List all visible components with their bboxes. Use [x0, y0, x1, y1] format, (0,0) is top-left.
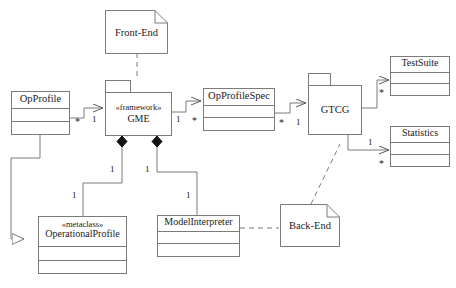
- class-opprofile-name: OpProfile: [12, 92, 69, 109]
- note-front-end: Front-End: [105, 10, 168, 54]
- composition-diamond-right: [152, 136, 162, 147]
- class-modelinterpreter-attributes: [158, 232, 239, 244]
- class-operationalprofile-attributes: [39, 247, 126, 261]
- link-gtcg-testsuite: [362, 80, 389, 108]
- link-gme-modelinterpreter: [157, 147, 197, 215]
- mult-opprofile-gme-target: 1: [92, 114, 97, 124]
- class-modelinterpreter[interactable]: ModelInterpreter: [157, 215, 240, 257]
- link-backend-gtcg: [311, 144, 340, 204]
- class-opprofilespec-name: OpProfileSpec: [204, 89, 274, 106]
- link-gme-operationalprofile: [83, 147, 122, 216]
- package-gme-stereotype: «framework»: [116, 103, 162, 113]
- note-back-end: Back-End: [280, 204, 340, 247]
- class-statistics-attributes: [391, 143, 449, 155]
- link-gme-opprofilespec: [172, 101, 201, 112]
- uml-class-diagram: Front-End Back-End «framework» GME GTCG …: [0, 0, 456, 288]
- package-gme[interactable]: «framework» GME: [105, 92, 172, 136]
- class-operationalprofile-header: «metaclass» OperationalProfile: [39, 217, 126, 247]
- mult-gme-comp-left-far: 1: [72, 190, 77, 200]
- mult-gme-comp-right-near: 1: [145, 164, 150, 174]
- class-opprofilespec-operations: [204, 118, 274, 130]
- class-testsuite-attributes: [391, 73, 449, 84]
- package-gtcg-name: GTCG: [321, 104, 350, 116]
- class-operationalprofile[interactable]: «metaclass» OperationalProfile: [38, 216, 127, 274]
- package-gme-text: «framework» GME: [116, 103, 162, 124]
- note-label-back-end: Back-End: [280, 204, 340, 247]
- class-opprofile-attributes: [12, 109, 69, 122]
- class-testsuite[interactable]: TestSuite: [390, 56, 450, 96]
- class-opprofilespec-attributes: [204, 106, 274, 118]
- class-operationalprofile-operations: [39, 261, 126, 274]
- class-modelinterpreter-name: ModelInterpreter: [158, 216, 239, 232]
- mult-spec-gtcg-source: *: [279, 117, 284, 128]
- class-modelinterpreter-operations: [158, 244, 239, 256]
- mult-gme-spec-target: *: [192, 115, 197, 126]
- class-statistics-name: Statistics: [391, 127, 449, 143]
- class-operationalprofile-name: OperationalProfile: [41, 229, 124, 240]
- class-opprofilespec[interactable]: OpProfileSpec: [203, 88, 275, 131]
- mult-opprofile-gme-source: *: [75, 116, 80, 127]
- class-testsuite-name: TestSuite: [391, 57, 449, 73]
- class-opprofile-operations: [12, 122, 69, 134]
- mult-gme-comp-left-near: 1: [110, 164, 115, 174]
- composition-diamonds: [117, 136, 162, 147]
- package-gtcg[interactable]: GTCG: [308, 85, 362, 135]
- composition-diamond-left: [117, 136, 127, 147]
- mult-gtcg-statistics-target: *: [379, 158, 384, 169]
- mult-gme-spec-source: 1: [176, 114, 181, 124]
- class-testsuite-operations: [391, 84, 449, 95]
- mult-gme-comp-right-far: 1: [186, 190, 191, 200]
- class-opprofile[interactable]: OpProfile: [11, 91, 70, 135]
- link-opprofile-generalization: [11, 135, 40, 239]
- package-gme-name: GME: [116, 113, 162, 125]
- mult-gtcg-testsuite: *: [379, 87, 384, 98]
- class-statistics-operations: [391, 155, 449, 166]
- class-statistics[interactable]: Statistics: [390, 126, 450, 167]
- mult-gtcg-statistics-source: 1: [368, 137, 373, 147]
- link-opprofilespec-gtcg: [275, 103, 306, 113]
- mult-spec-gtcg-target: 1: [296, 117, 301, 127]
- note-label-front-end: Front-End: [105, 10, 168, 54]
